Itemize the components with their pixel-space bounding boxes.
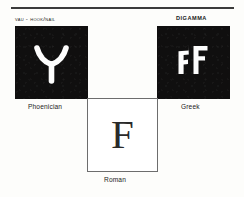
letter-evolution-figure: vau - hook/nail Phoenician DIGAMMA Greek… [0,0,244,197]
phoenician-vau-glyph [15,26,88,99]
roman-f-glyph: F [88,99,157,171]
greek-digamma-glyph [157,26,230,99]
roman-glyph-panel: F [87,98,158,172]
phoenician-bottom-caption: Phoenician [28,103,62,110]
roman-bottom-caption: Roman [104,176,126,183]
horizontal-rule [11,7,234,9]
phoenician-top-caption: vau - hook/nail [15,15,55,22]
phoenician-glyph-panel [15,26,88,99]
greek-bottom-caption: Greek [181,103,200,110]
greek-top-caption: DIGAMMA [176,15,207,21]
greek-glyph-panel [157,26,230,99]
